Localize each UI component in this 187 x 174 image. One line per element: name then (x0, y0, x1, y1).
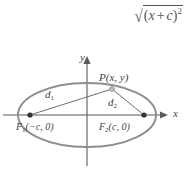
math-formula: √(x+c)2 (0, 5, 183, 25)
focus-right-coords: (c, 0) (109, 121, 130, 132)
radical-sign-icon: √ (135, 8, 143, 25)
distance-d1-subscript: 1 (51, 94, 55, 102)
point-p-marker (110, 87, 115, 92)
distance-d2-label: d2 (108, 97, 117, 110)
x-axis-arrowhead-icon (160, 111, 168, 118)
focus-right-dot (141, 112, 146, 117)
variable-x: x (148, 8, 154, 23)
figure-page: √(x+c)2 y x (0, 0, 187, 174)
y-axis-label: y (80, 52, 85, 63)
exponent-two: 2 (178, 6, 183, 16)
radicand-group: (x+c)2 (143, 5, 183, 24)
distance-d1-label: d1 (45, 89, 54, 102)
segment-d1 (30, 89, 112, 115)
point-p-name: P (99, 71, 106, 83)
distance-d2-subscript: 2 (114, 102, 118, 110)
x-axis-label: x (173, 108, 178, 119)
focus-left-label: F1(−c, 0) (16, 122, 53, 134)
diagram-canvas (0, 48, 187, 174)
ellipse-diagram: y x P(x, y) d1 d2 F1(−c, 0) F2(c, 0) (0, 48, 187, 174)
radical-expression: √(x+c)2 (134, 5, 183, 25)
focus-left-dot (27, 112, 32, 117)
point-p-label: P(x, y) (99, 72, 128, 83)
point-p-coords: (x, y) (106, 71, 129, 83)
focus-right-label: F2(c, 0) (99, 122, 130, 134)
plus-operator: + (155, 8, 167, 23)
focus-left-coords: (−c, 0) (26, 121, 54, 132)
